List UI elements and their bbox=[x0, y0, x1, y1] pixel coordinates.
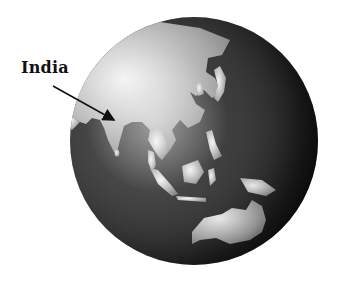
globe-shading bbox=[70, 17, 318, 265]
india-label: India bbox=[21, 58, 69, 77]
globe-svg bbox=[0, 0, 342, 285]
globe-figure: India bbox=[0, 0, 342, 285]
